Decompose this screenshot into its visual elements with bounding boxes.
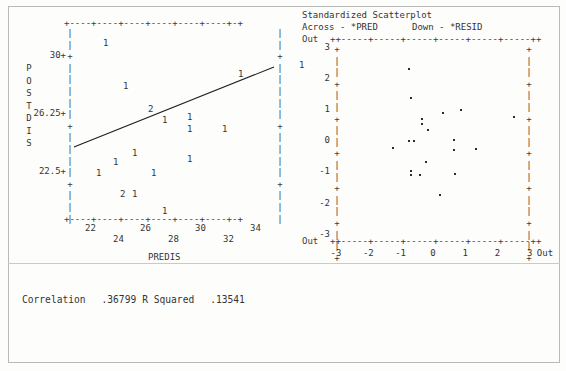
left-plot-xtick-34: 34	[250, 223, 261, 233]
right-plot-point	[413, 140, 415, 142]
right-plot-subtitle-down: Down - *RESID	[412, 22, 482, 32]
left-plot-marker: 1	[238, 69, 243, 79]
left-plot-marker: 2	[120, 189, 125, 199]
rsquared-label: R Squared	[142, 294, 194, 305]
left-plot-marker: 1	[132, 189, 137, 199]
right-plot-ytick: 1	[304, 104, 330, 114]
left-plot-marker: 1	[187, 124, 192, 134]
left-plot-xtick-28: 28	[168, 234, 179, 244]
left-plot-ytick-30: 30+	[22, 50, 66, 60]
right-plot-xtick: 1	[455, 248, 475, 258]
right-plot-point	[419, 174, 421, 176]
correlation-value: .36799	[102, 294, 137, 305]
right-plot-point	[421, 118, 423, 120]
right-plot-bottom-axis: ++-----+-----+-----+-----+-----+-----++	[330, 236, 541, 246]
right-scatterplot: Standardized Scatterplot Across - *PRED …	[300, 10, 556, 260]
left-plot-marker: 1	[123, 81, 128, 91]
left-plot-marker: 1	[187, 112, 192, 122]
spss-output-page: +----+----+----+----+----+----+-+ ||+|||…	[0, 0, 566, 371]
right-plot-point	[442, 112, 444, 114]
right-plot-top-axis: ++-----+-----+-----+-----+-----+-----++	[330, 34, 541, 44]
right-plot-point	[392, 147, 394, 149]
left-plot-ytick-26-25: 26.25+	[18, 108, 66, 118]
regression-statistics: Correlation.36799R Squared.13541 Variabl…	[22, 272, 264, 371]
left-plot-marker: 1	[132, 148, 137, 158]
right-plot-point	[410, 170, 412, 172]
left-plot-xtick-26: 26	[140, 223, 151, 233]
right-plot-xtick: 0	[423, 248, 443, 258]
right-plot-point	[454, 173, 456, 175]
right-plot-point	[421, 123, 423, 125]
left-plot-top-axis: +----+----+----+----+----+----+-+	[64, 18, 243, 28]
right-plot-ytick: 3	[304, 42, 330, 52]
right-plot-x-out-label: Out	[532, 248, 558, 258]
left-plot-xtick-24: 24	[113, 234, 124, 244]
page-frame-left	[8, 6, 9, 363]
left-scatterplot: +----+----+----+----+----+----+-+ ||+|||…	[12, 10, 290, 260]
right-plot-point	[425, 161, 427, 163]
left-plot-y-axis-title: POSTDIS	[24, 62, 34, 150]
left-plot-right-axis-line: ||+|||||+||||+|||	[276, 28, 284, 225]
left-plot-marker: 1	[162, 115, 167, 125]
right-plot-point	[513, 116, 515, 118]
right-plot-ytick: -1	[304, 166, 330, 176]
left-plot-marker: 1	[162, 206, 167, 216]
right-plot-point	[475, 148, 477, 150]
right-plot-ytick: -3	[304, 229, 330, 239]
right-plot-subtitle-across: Across - *PRED	[302, 22, 378, 32]
right-plot-point	[453, 149, 455, 151]
left-plot-ytick-22-5: 22.5+	[22, 166, 66, 176]
page-frame-top	[8, 6, 560, 7]
left-plot-x-axis-title: PREDIS	[148, 252, 181, 262]
right-plot-point	[453, 139, 455, 141]
section-divider	[8, 263, 560, 264]
right-plot-ytick: 0	[304, 135, 330, 145]
right-plot-point	[439, 194, 441, 196]
left-plot-marker: 1	[222, 124, 227, 134]
left-plot-y-axis-line: ||+|||||+||||+|||	[66, 28, 74, 225]
correlation-line: Correlation.36799R Squared.13541	[22, 294, 264, 305]
rsquared-value: .13541	[210, 294, 245, 305]
left-plot-marker: 1	[113, 157, 118, 167]
right-plot-point	[427, 129, 429, 131]
right-plot-point	[460, 109, 462, 111]
left-plot-marker: 1	[187, 154, 192, 164]
right-plot-ytick: -2	[304, 198, 330, 208]
left-plot-marker: 2	[148, 104, 153, 114]
left-plot-marker: 1	[151, 168, 156, 178]
right-plot-xtick: -2	[358, 248, 378, 258]
right-plot-y-axis-line: +||+||+||+||+||+||+	[333, 44, 341, 264]
right-plot-point	[410, 174, 412, 176]
correlation-label: Correlation	[22, 294, 86, 305]
left-plot-xtick-32: 32	[223, 234, 234, 244]
left-plot-xtick-30: 30	[195, 223, 206, 233]
left-plot-marker: 1	[103, 38, 108, 48]
right-plot-xtick: -3	[326, 248, 346, 258]
right-plot-point	[408, 68, 410, 70]
right-plot-point	[410, 97, 412, 99]
right-plot-point	[408, 140, 410, 142]
right-plot-xtick: 2	[488, 248, 508, 258]
right-plot-ytick: 2	[304, 73, 330, 83]
page-frame-right	[559, 6, 560, 363]
left-plot-marker: 1	[96, 168, 101, 178]
left-plot-xtick-22: 22	[85, 223, 96, 233]
right-plot-xtick: -1	[391, 248, 411, 258]
right-plot-title: Standardized Scatterplot	[302, 10, 432, 20]
right-plot-right-axis-line: +||+||+||+||+||+||+	[525, 44, 533, 264]
